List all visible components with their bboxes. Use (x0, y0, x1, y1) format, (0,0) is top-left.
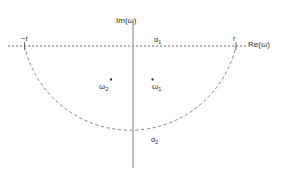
point-marker-omega2 (110, 78, 112, 80)
point-label-omega1: ω1 (152, 83, 161, 91)
contour-segment-label-alpha1: α1 (154, 36, 161, 44)
omega1-subscript: 1 (158, 86, 161, 92)
point-marker-omega1 (151, 78, 153, 80)
alpha2-subscript: 2 (155, 139, 158, 145)
real-axis-label: Re(ω) (248, 41, 270, 49)
tick-label-neg-r: −r (21, 35, 28, 43)
omega2-subscript: 2 (105, 86, 108, 92)
point-label-omega2: ω2 (99, 83, 108, 91)
contour-diagram-canvas (0, 0, 286, 176)
alpha1-subscript: 1 (158, 39, 161, 45)
semicircle-arc-alpha2 (25, 46, 237, 130)
complex-plane-contour-figure: Im(ω) Re(ω) −r r α1 α2 ω1 ω2 (0, 0, 286, 176)
imaginary-axis-label: Im(ω) (116, 17, 136, 25)
tick-label-pos-r: r (233, 35, 236, 43)
contour-segment-label-alpha2: α2 (151, 136, 158, 144)
